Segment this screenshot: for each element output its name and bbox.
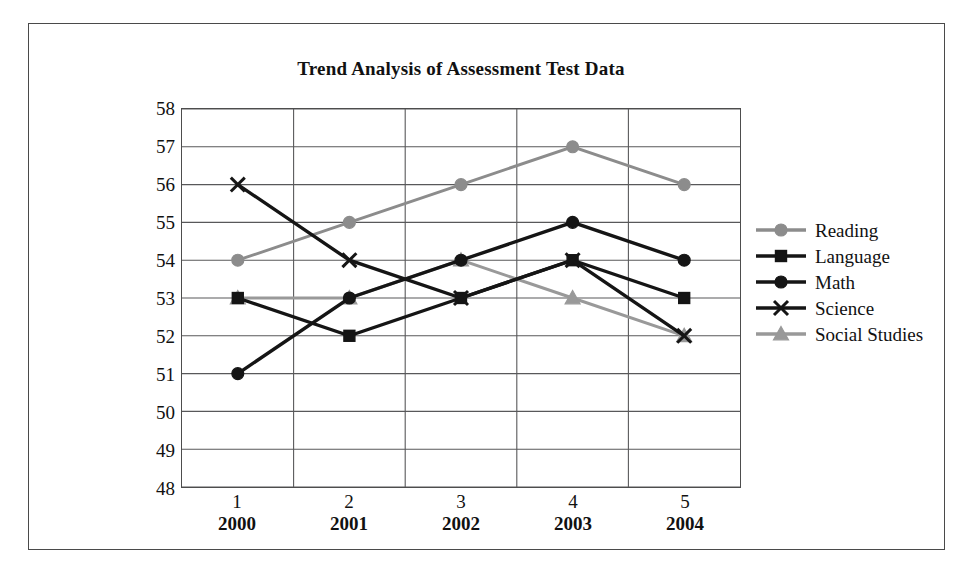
x-axis-index-label: 1 xyxy=(181,492,293,512)
x-black-icon xyxy=(755,297,807,319)
x-axis-year-label: 2003 xyxy=(517,512,629,536)
x-axis-tick-2: 22001 xyxy=(293,492,405,552)
x-axis-index-label: 3 xyxy=(405,492,517,512)
y-axis-tick-52: 52 xyxy=(129,327,175,346)
legend-item-social-studies[interactable]: Social Studies xyxy=(755,321,969,347)
circle-black-icon xyxy=(755,271,807,293)
y-axis-tick-57: 57 xyxy=(129,137,175,156)
x-axis-year-label: 2001 xyxy=(293,512,405,536)
plot-area xyxy=(181,108,741,488)
x-axis-index-label: 2 xyxy=(293,492,405,512)
legend-label: Science xyxy=(807,299,874,318)
y-axis-tick-49: 49 xyxy=(129,441,175,460)
legend-item-language[interactable]: Language xyxy=(755,243,969,269)
legend-label: Language xyxy=(807,247,890,266)
legend-label: Math xyxy=(807,273,855,292)
x-axis-index-label: 5 xyxy=(629,492,741,512)
legend-label: Reading xyxy=(807,221,878,240)
chart-legend: ReadingLanguageMathScienceSocial Studies xyxy=(755,217,969,347)
x-axis-tick-1: 12000 xyxy=(181,492,293,552)
series-reading xyxy=(232,141,690,266)
x-axis-tick-4: 42003 xyxy=(517,492,629,552)
x-axis-year-label: 2002 xyxy=(405,512,517,536)
x-axis-year-label: 2000 xyxy=(181,512,293,536)
y-axis-labels: 5857565554535251504948 xyxy=(125,108,175,488)
legend-label: Social Studies xyxy=(807,325,923,344)
chart-frame: Trend Analysis of Assessment Test Data 5… xyxy=(28,23,945,550)
y-axis-tick-50: 50 xyxy=(129,403,175,422)
legend-item-math[interactable]: Math xyxy=(755,269,969,295)
legend-item-reading[interactable]: Reading xyxy=(755,217,969,243)
line-chart-svg xyxy=(182,109,740,487)
y-axis-tick-54: 54 xyxy=(129,251,175,270)
legend-item-science[interactable]: Science xyxy=(755,295,969,321)
y-axis-tick-51: 51 xyxy=(129,365,175,384)
y-axis-tick-48: 48 xyxy=(129,479,175,498)
y-axis-tick-56: 56 xyxy=(129,175,175,194)
triangle-gray-icon xyxy=(755,323,807,345)
y-axis-tick-58: 58 xyxy=(129,99,175,118)
x-axis-tick-5: 52004 xyxy=(629,492,741,552)
circle-gray-icon xyxy=(755,219,807,241)
x-axis-index-label: 4 xyxy=(517,492,629,512)
y-axis-tick-53: 53 xyxy=(129,289,175,308)
x-axis-year-label: 2004 xyxy=(629,512,741,536)
page-title: Trend Analysis of Assessment Test Data xyxy=(181,58,741,80)
x-axis-tick-3: 32002 xyxy=(405,492,517,552)
y-axis-tick-55: 55 xyxy=(129,213,175,232)
square-black-icon xyxy=(755,245,807,267)
x-axis-labels: 1200022001320024200352004 xyxy=(181,492,741,552)
